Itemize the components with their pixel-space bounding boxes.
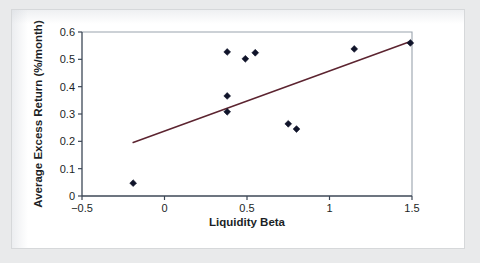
- trend-line: [133, 42, 410, 143]
- scatter-plot-figure: 00.10.20.30.40.50.6 −0.500.511.5 Liquidi…: [12, 10, 464, 248]
- x-axis-tick-labels: −0.500.511.5: [71, 202, 420, 214]
- x-tick-label: −0.5: [71, 202, 93, 214]
- page-root: 00.10.20.30.40.50.6 −0.500.511.5 Liquidi…: [0, 0, 480, 263]
- x-tick-label: 0: [161, 202, 167, 214]
- data-point: [293, 126, 300, 133]
- y-tick-label: 0.6: [60, 26, 75, 38]
- x-tick-label: 1.5: [404, 202, 419, 214]
- chart-canvas: 00.10.20.30.40.50.6 −0.500.511.5 Liquidi…: [12, 10, 464, 248]
- data-point: [407, 40, 414, 47]
- plot-frame: [82, 32, 412, 196]
- data-point: [130, 180, 137, 187]
- data-point: [351, 46, 358, 53]
- y-tick-label: 0: [69, 190, 75, 202]
- data-point: [224, 93, 231, 100]
- x-tick-label: 0.5: [239, 202, 254, 214]
- scatter-points-group: [130, 40, 414, 187]
- y-tick-label: 0.3: [60, 108, 75, 120]
- y-axis-tick-labels: 00.10.20.30.40.50.6: [60, 26, 75, 202]
- data-point: [252, 49, 259, 56]
- data-point: [242, 55, 249, 62]
- y-tick-label: 0.2: [60, 135, 75, 147]
- y-tick-label: 0.4: [60, 81, 75, 93]
- y-tick-label: 0.1: [60, 163, 75, 175]
- y-axis-title: Average Excess Return (%/month): [32, 20, 44, 208]
- figure-card: 00.10.20.30.40.50.6 −0.500.511.5 Liquidi…: [12, 10, 464, 248]
- x-axis-title: Liquidity Beta: [209, 216, 286, 228]
- data-point: [285, 120, 292, 127]
- y-tick-label: 0.5: [60, 53, 75, 65]
- x-tick-label: 1: [326, 202, 332, 214]
- data-point: [224, 49, 231, 56]
